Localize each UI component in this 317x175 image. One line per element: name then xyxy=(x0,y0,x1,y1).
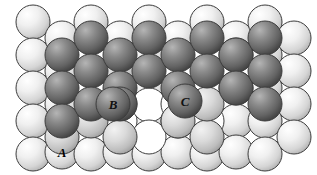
dark-sphere xyxy=(103,38,137,72)
dark-sphere xyxy=(45,38,79,72)
dark-sphere xyxy=(132,54,166,88)
dark-sphere xyxy=(219,71,253,105)
mid-sphere xyxy=(190,120,224,154)
mid-sphere xyxy=(103,120,137,154)
lattice-svg xyxy=(0,0,317,175)
atomic-lattice-figure: ABC xyxy=(0,0,317,175)
dark-sphere xyxy=(248,54,282,88)
dark-sphere xyxy=(74,54,108,88)
dark-sphere xyxy=(190,54,224,88)
light-sphere xyxy=(248,137,282,171)
dark-sphere xyxy=(132,21,166,55)
dark-sphere xyxy=(96,87,130,121)
dark-sphere xyxy=(248,87,282,121)
dark-sphere xyxy=(219,38,253,72)
dark-sphere xyxy=(168,84,202,118)
dark-sphere xyxy=(248,21,282,55)
dark-sphere xyxy=(190,21,224,55)
light-sphere xyxy=(16,5,50,39)
dark-sphere xyxy=(161,38,195,72)
dark-sphere xyxy=(74,21,108,55)
dark-sphere xyxy=(45,104,79,138)
dark-sphere xyxy=(45,71,79,105)
light-sphere xyxy=(277,120,311,154)
